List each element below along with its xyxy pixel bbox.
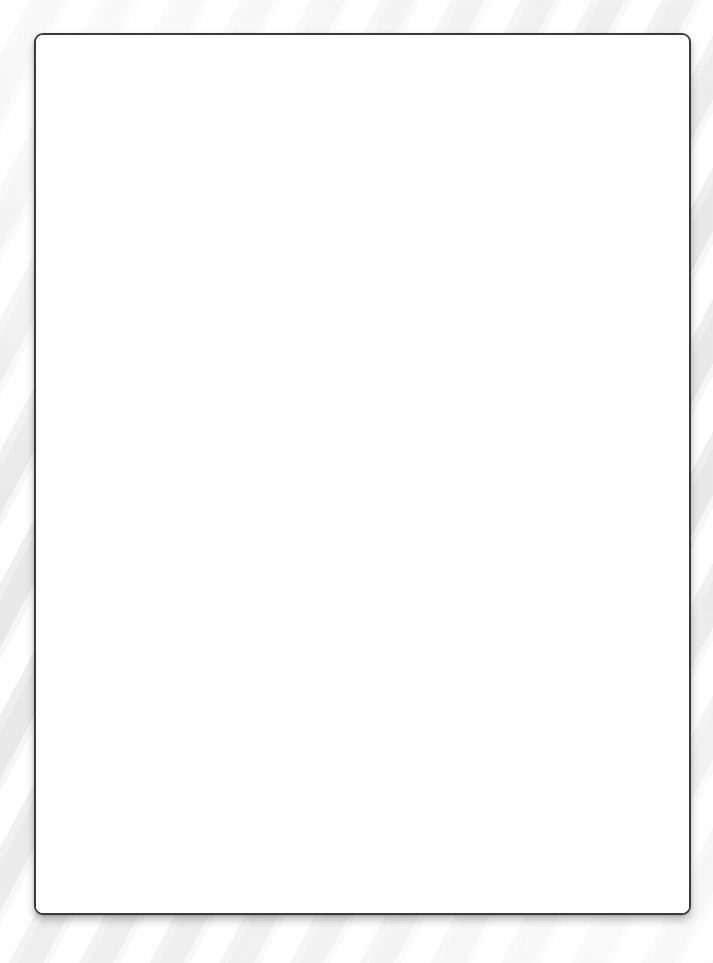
screenshot-canvas [0,0,713,963]
blank-document-card[interactable] [34,33,691,915]
document-content-area[interactable] [36,35,689,913]
